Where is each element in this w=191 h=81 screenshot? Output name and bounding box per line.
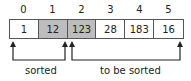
sorted-label: sorted bbox=[25, 65, 57, 76]
to-be-sorted-label: to be sorted bbox=[100, 65, 161, 76]
arrow-up-icon bbox=[62, 41, 68, 47]
arrow-up-icon bbox=[10, 41, 16, 47]
arrow-up-icon bbox=[69, 41, 75, 47]
arrow-up-icon bbox=[177, 41, 183, 47]
sorted-bracket bbox=[10, 41, 68, 60]
to-be-sorted-bracket bbox=[69, 41, 183, 60]
